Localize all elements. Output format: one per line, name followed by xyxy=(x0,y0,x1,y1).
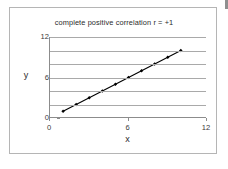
page-edge-artifact xyxy=(225,0,228,9)
gridline-y xyxy=(50,78,206,79)
y-axis-tick-label: 0 xyxy=(23,114,49,122)
x-axis-tick-label: 0 xyxy=(37,123,61,132)
y-axis-tick-labels: 0612 xyxy=(19,37,49,118)
chart-title: complete positive correlation r = +1 xyxy=(10,18,218,27)
x-axis-title: x xyxy=(49,134,206,144)
y-axis-tick-label: 6 xyxy=(23,74,49,82)
x-axis-tick-label: 12 xyxy=(194,123,218,132)
x-axis-tick-mark xyxy=(206,118,207,121)
gridline-y xyxy=(50,37,206,38)
y-axis-tick-label: 12 xyxy=(23,33,49,41)
gridline-y xyxy=(50,91,206,92)
x-axis-tick-mark xyxy=(49,118,50,121)
chart-container: complete positive correlation r = +1 y 0… xyxy=(9,7,217,154)
gridline-y xyxy=(50,64,206,65)
gridline-y xyxy=(50,105,206,106)
plot-area xyxy=(49,37,206,118)
x-axis-tick-mark xyxy=(128,118,129,121)
series-polyline xyxy=(63,51,181,112)
x-axis-tick-label: 6 xyxy=(116,123,140,132)
gridline-y xyxy=(50,51,206,52)
